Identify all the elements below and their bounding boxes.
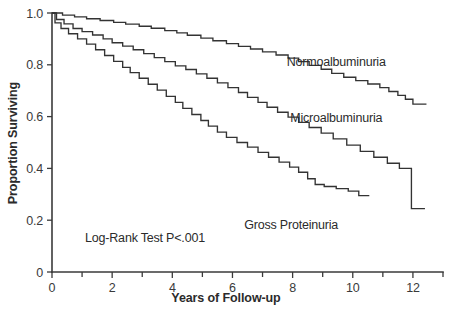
y-axis-title: Proportion Surviving [6,82,20,204]
y-tick-label: 0 [36,266,43,280]
y-tick-label: 1.0 [26,7,43,21]
series-label-gross-proteinuria: Gross Proteinuria [244,218,338,232]
y-tick-label: 0.6 [26,110,43,124]
series-label-normoalbuminuria: Normoalbuminuria [287,55,386,69]
y-tick-label: 0.2 [26,214,43,228]
chart-background [0,0,452,309]
x-tick-label: 10 [346,281,360,295]
y-tick-label: 0.8 [26,58,43,72]
kaplan-meier-figure: 00.20.40.60.81.0 024681012 Normoalbuminu… [0,0,452,309]
x-tick-label: 0 [49,281,56,295]
annotations-group: Log-Rank Test P<.001 [85,231,205,245]
x-tick-label: 8 [289,281,296,295]
x-axis-title: Years of Follow-up [171,291,281,305]
y-tick-label: 0.4 [26,162,43,176]
log-rank-annotation: Log-Rank Test P<.001 [85,231,205,245]
x-tick-label: 12 [406,281,420,295]
survival-chart-canvas: 00.20.40.60.81.0 024681012 Normoalbuminu… [0,0,452,309]
series-label-microalbuminuria: Microalbuminuria [290,111,382,125]
x-tick-label: 2 [109,281,116,295]
